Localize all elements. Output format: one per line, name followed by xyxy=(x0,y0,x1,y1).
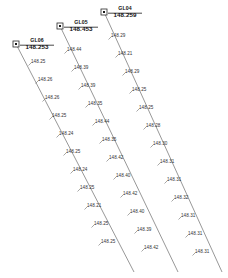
spot-level-label[interactable]: 148.24 xyxy=(59,132,73,137)
spot-level-label[interactable]: 148.42 xyxy=(109,156,123,161)
spot-level-label[interactable]: 148.25 xyxy=(132,88,146,93)
spot-level-label[interactable]: 148.29 xyxy=(125,70,139,75)
spot-level-label[interactable]: 148.25 xyxy=(101,240,115,245)
spot-level-label[interactable]: 148.42 xyxy=(123,192,137,197)
spot-level-label[interactable]: 148.31 xyxy=(188,232,202,237)
spot-level-label[interactable]: 148.40 xyxy=(130,210,144,215)
cad-drawing-canvas[interactable]: GL06148.253GL05148.453GL04148.259 148.25… xyxy=(0,0,228,278)
spot-level-label[interactable]: 148.35 xyxy=(88,102,102,107)
spot-level-label[interactable]: 148.24 xyxy=(73,168,87,173)
spot-level-label[interactable]: 148.29 xyxy=(111,34,125,39)
spot-level-label[interactable]: 148.25 xyxy=(66,150,80,155)
spot-level-label[interactable]: 148.39 xyxy=(137,228,151,233)
square-node-center-icon xyxy=(103,11,105,13)
spot-level-label[interactable]: 148.21 xyxy=(87,204,101,209)
spot-level-label[interactable]: 148.31 xyxy=(167,178,181,183)
spot-level-label[interactable]: 148.40 xyxy=(116,174,130,179)
spot-level-label[interactable]: 148.28 xyxy=(146,124,160,129)
spot-level-label[interactable]: 148.30 xyxy=(153,142,167,147)
station-label-gl04[interactable]: GL04148.259 xyxy=(106,6,144,18)
spot-level-label[interactable]: 148.25 xyxy=(139,106,153,111)
spot-level-label[interactable]: 148.25 xyxy=(80,186,94,191)
spot-level-label[interactable]: 148.31 xyxy=(195,250,209,255)
spot-level-label[interactable]: 148.44 xyxy=(67,48,81,53)
spot-level-label[interactable]: 148.26 xyxy=(45,96,59,101)
square-node-center-icon xyxy=(15,43,17,45)
spot-level-label[interactable]: 148.25 xyxy=(31,60,45,65)
spot-level-label[interactable]: 148.42 xyxy=(144,246,158,251)
spot-level-label[interactable]: 148.31 xyxy=(160,160,174,165)
spot-level-label[interactable]: 148.39 xyxy=(74,66,88,71)
square-node-center-icon xyxy=(59,25,61,27)
spot-level-label[interactable]: 148.21 xyxy=(118,52,132,57)
spot-level-label[interactable]: 148.35 xyxy=(102,138,116,143)
station-elevation: 148.259 xyxy=(106,11,144,18)
spot-level-label[interactable]: 148.31 xyxy=(181,214,195,219)
station-elevation: 148.253 xyxy=(18,43,56,50)
spot-level-label[interactable]: 148.39 xyxy=(81,84,95,89)
spot-level-label[interactable]: 148.32 xyxy=(174,196,188,201)
spot-level-label[interactable]: 148.44 xyxy=(95,120,109,125)
station-label-gl05[interactable]: GL05148.453 xyxy=(62,20,100,32)
station-elevation: 148.453 xyxy=(62,25,100,32)
spot-level-label[interactable]: 148.26 xyxy=(38,78,52,83)
station-label-gl06[interactable]: GL06148.253 xyxy=(18,38,56,50)
spot-level-label[interactable]: 148.25 xyxy=(52,114,66,119)
spot-level-label[interactable]: 148.25 xyxy=(94,222,108,227)
